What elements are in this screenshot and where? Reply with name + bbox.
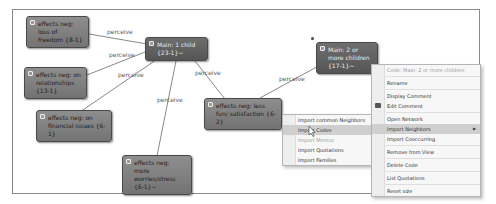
code-node[interactable]: effects neg: more worries/stress {6-1}~ — [122, 155, 192, 195]
menu-item-import-families[interactable]: Import Families — [283, 155, 372, 165]
menu-separator — [386, 171, 480, 172]
menu-item-import-codes[interactable]: Import Codes — [283, 125, 372, 135]
code-node[interactable]: Main: 1 child {23-1}~ — [145, 37, 208, 61]
menu-item-import-common-neighbors[interactable]: Import common Neighbors — [283, 115, 372, 125]
selection-marker — [311, 37, 314, 40]
menu-item-list-quotations[interactable]: List Quotations — [372, 173, 480, 183]
menu-separator — [386, 112, 480, 113]
menu-separator — [386, 158, 480, 159]
node-label: effects neg: on financial issues {6-1} — [48, 114, 106, 137]
submenu-arrow-icon: ▶ — [473, 124, 476, 134]
menu-item-label: Reset size — [387, 188, 412, 194]
node-label: effects neg: less fun/ satisfaction {6-2… — [216, 102, 276, 125]
code-node[interactable]: effects neg: less fun/ satisfaction {6-2… — [204, 98, 282, 130]
menu-item-label: Open Network — [387, 116, 423, 122]
edge-label-perceive[interactable]: perceive — [118, 71, 144, 78]
menu-item-delete-code[interactable]: Delete Code — [372, 160, 480, 170]
node-label: Main: 2 or more children {17-1}~ — [328, 46, 370, 69]
code-icon — [40, 114, 45, 119]
menu-item-label: Rename — [387, 80, 408, 86]
menu-item-display-comment[interactable]: Display Comment — [372, 91, 480, 101]
node-label: Main: 1 child {23-1}~ — [157, 41, 195, 56]
menu-item-label: Import common Neighbors — [298, 117, 365, 123]
menu-separator — [386, 89, 480, 90]
edge-line[interactable] — [89, 34, 147, 44]
comment-icon — [375, 103, 381, 108]
code-node[interactable]: effects neg: loss of freedom {8-1} — [26, 16, 89, 48]
menu-item-remove-from-view[interactable]: Remove from View — [372, 147, 480, 157]
menu-item-label: Display Comment — [387, 93, 432, 99]
menu-item-label: Import Cooccurring — [387, 136, 435, 142]
menu-item-label: Import Quotations — [298, 147, 344, 153]
code-icon — [149, 41, 154, 46]
menu-item-label: Edit Comment — [387, 103, 423, 109]
menu-item-open-network[interactable]: Open Network — [372, 114, 480, 124]
node-label: effects neg: more worries/stress {6-1}~ — [134, 159, 176, 190]
menu-item-label: Import Families — [298, 157, 336, 163]
menu-separator — [386, 76, 480, 77]
menu-separator — [386, 145, 480, 146]
node-label: effects neg: on relationships {13-1} — [36, 71, 81, 94]
code-icon — [208, 102, 213, 107]
menu-item-import-neighbors[interactable]: Import Neighbors▶ — [372, 124, 480, 134]
code-icon — [320, 46, 325, 51]
menu-item-import-memos: Import Memos — [283, 135, 372, 145]
menu-item-label: List Quotations — [387, 175, 425, 181]
edge-label-perceive[interactable]: perceive — [157, 96, 183, 103]
edge-line[interactable] — [157, 51, 178, 156]
menu-item-label: Code: Main: 2 or more children — [387, 67, 464, 73]
code-node[interactable]: Main: 2 or more children {17-1}~ — [316, 42, 378, 74]
menu-item-import-quotations[interactable]: Import Quotations — [283, 145, 372, 155]
edge-label-perceive[interactable]: perceive — [107, 28, 133, 35]
menu-item-label: Import Neighbors — [387, 126, 431, 132]
code-icon — [28, 71, 33, 76]
edge-label-perceive[interactable]: perceive — [109, 51, 135, 58]
menu-item-code-main-2-or-more-children: Code: Main: 2 or more children — [372, 65, 480, 75]
code-icon — [126, 159, 131, 164]
mouse-cursor-icon — [308, 126, 316, 137]
menu-item-label: Import Memos — [298, 137, 334, 143]
menu-item-label: Remove from View — [387, 149, 434, 155]
menu-item-edit-comment[interactable]: Edit Comment — [372, 101, 480, 111]
code-node[interactable]: effects neg: on relationships {13-1} — [24, 67, 87, 99]
edge-label-perceive[interactable]: perceive — [195, 69, 221, 76]
menu-item-import-cooccurring[interactable]: Import Cooccurring — [372, 134, 480, 144]
menu-item-reset-size[interactable]: Reset size — [372, 186, 480, 196]
import-neighbors-submenu: Import common NeighborsImport CodesImpor… — [282, 114, 373, 166]
edge-label-perceive[interactable]: perceive — [279, 75, 305, 82]
code-node[interactable]: effects neg: on financial issues {6-1} — [36, 110, 112, 142]
menu-item-label: Delete Code — [387, 162, 418, 168]
code-icon — [30, 20, 35, 25]
menu-separator — [386, 184, 480, 185]
node-label: effects neg: loss of freedom {8-1} — [38, 20, 83, 43]
context-menu: Code: Main: 2 or more childrenRenameDisp… — [371, 64, 481, 197]
menu-item-rename[interactable]: Rename — [372, 78, 480, 88]
